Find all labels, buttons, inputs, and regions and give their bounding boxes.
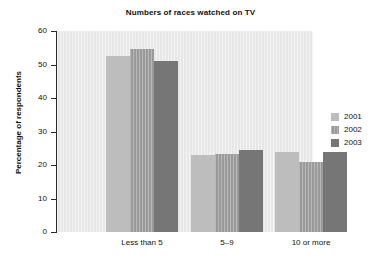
legend-label-2003: 2003	[344, 139, 362, 147]
legend-swatch-icon-2001	[331, 113, 339, 121]
bar-2003-0	[154, 61, 178, 232]
legend-label-2001: 2001	[344, 113, 362, 121]
bar-2002-0	[130, 49, 154, 232]
y-tick-label: 0	[7, 228, 47, 236]
legend-item-2003: 2003	[331, 136, 362, 149]
legend-label-2002: 2002	[344, 126, 362, 134]
y-tick-mark	[51, 232, 57, 233]
y-tick-label: 50	[7, 61, 47, 69]
legend-swatch-icon-2002	[331, 126, 339, 134]
bar-2003-2	[323, 152, 347, 232]
y-tick-label: 30	[7, 128, 47, 136]
bar-2002-2	[299, 162, 323, 232]
bar-2001-1	[191, 155, 215, 232]
plot-area	[57, 31, 313, 232]
bar-chart-figure: Numbers of races watched on TV Percentag…	[0, 0, 381, 267]
bar-2001-2	[275, 152, 299, 232]
bar-2001-0	[106, 56, 130, 232]
legend-item-2001: 2001	[331, 110, 362, 123]
chart-title: Numbers of races watched on TV	[0, 8, 381, 17]
bar-2003-1	[239, 150, 263, 232]
legend-item-2002: 2002	[331, 123, 362, 136]
y-tick-label: 10	[7, 195, 47, 203]
y-tick-label: 40	[7, 94, 47, 102]
legend-swatch-icon-2003	[331, 139, 339, 147]
y-tick-label: 20	[7, 161, 47, 169]
y-tick-label: 60	[7, 27, 47, 35]
category-label-2: 10 or more	[261, 238, 361, 247]
chart-legend: 200120022003	[331, 110, 362, 149]
bar-2002-1	[215, 154, 239, 232]
